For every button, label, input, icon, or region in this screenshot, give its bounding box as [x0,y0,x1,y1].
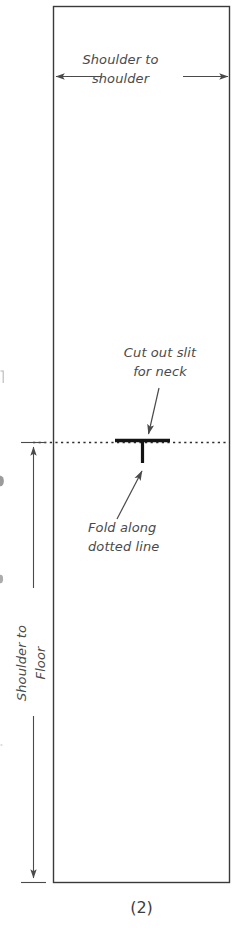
figure-caption: (2) [53,898,230,917]
label-shoulder-to-floor: Shoulder to Floor [12,598,50,728]
label-cut-out-slit: Cut out slit for neck [95,343,225,381]
pattern-diagram: Shoulder to shoulder Cut out slit for ne… [0,0,241,948]
neighbor-figure-edge-marks [0,371,4,745]
label-fold-along: Fold along dotted line [88,518,208,556]
diagram-canvas [0,0,241,948]
label-shoulder-to-shoulder: Shoulder to shoulder [0,50,241,88]
